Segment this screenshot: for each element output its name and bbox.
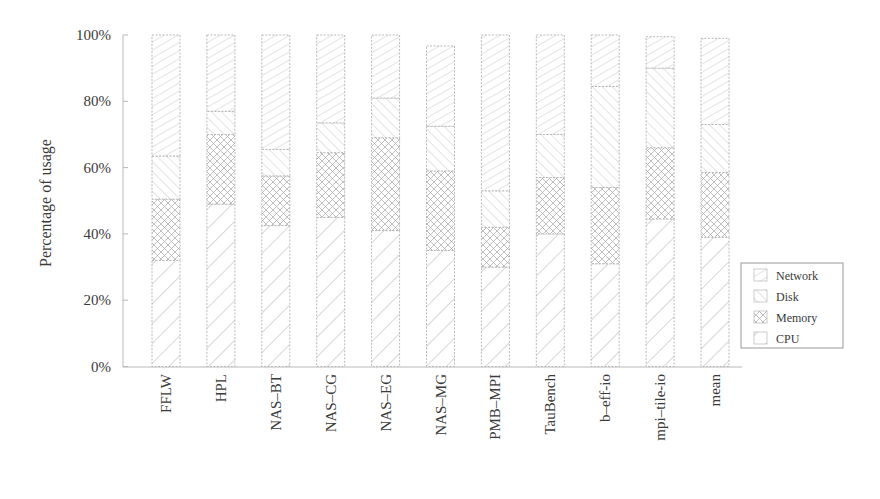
y-tick-label: 20%: [84, 292, 112, 308]
x-tick-label: NAS–MG: [433, 374, 449, 436]
legend-label-memory: Memory: [776, 311, 817, 325]
bar-segment-disk: [262, 149, 290, 176]
y-axis-title: Percentage of usage: [37, 139, 55, 267]
legend-label-network: Network: [776, 269, 818, 283]
bar-segment-cpu: [481, 267, 509, 366]
legend-swatch-disk: [754, 290, 767, 302]
bar-segment-memory: [701, 173, 729, 238]
x-tick-label: HPL: [213, 374, 229, 402]
bar-nas-cg: [317, 35, 345, 367]
bar-segment-disk: [481, 191, 509, 227]
x-tick-label: NAS–CG: [323, 374, 339, 433]
bar-segment-cpu: [427, 250, 455, 366]
bar-segment-memory: [372, 138, 400, 231]
bar-segment-memory: [207, 134, 235, 204]
bar-nas-eg: [372, 35, 400, 367]
bar-segment-network: [646, 37, 674, 68]
bar-segment-cpu: [372, 231, 400, 367]
bar-segment-network: [262, 35, 290, 149]
bar-segment-network: [591, 35, 619, 86]
x-tick-labels: FFLWHPLNAS–BTNAS–CGNAS–EGNAS–MGPMB–MPITa…: [158, 373, 723, 440]
legend-label-disk: Disk: [776, 290, 799, 304]
bar-segment-network: [536, 35, 564, 134]
x-tick-label: FFLW: [158, 373, 174, 413]
bar-segment-memory: [427, 171, 455, 251]
bar-segment-network: [481, 35, 509, 191]
bar-segment-disk: [317, 123, 345, 153]
bar-segment-cpu: [646, 219, 674, 367]
legend-swatch-network: [754, 269, 767, 281]
bar-segment-cpu: [317, 217, 345, 366]
y-tick-label: 60%: [84, 160, 112, 176]
bar-segment-memory: [591, 187, 619, 263]
bar-segment-disk: [372, 98, 400, 138]
bar-fflw: [152, 35, 180, 367]
bar-segment-cpu: [701, 237, 729, 366]
legend-swatch-cpu: [754, 332, 767, 344]
y-ticks: 0%20%40%60%80%100%: [76, 27, 128, 375]
y-tick-label: 40%: [84, 226, 112, 242]
x-tick-label: b–eff-io: [597, 374, 613, 422]
bars: [152, 35, 729, 367]
bar-segment-cpu: [262, 226, 290, 367]
y-tick-label: 0%: [91, 359, 111, 375]
bar-segment-network: [207, 35, 235, 111]
y-tick-label: 100%: [76, 27, 111, 43]
y-tick-label: 80%: [84, 93, 112, 109]
legend-swatch-memory: [754, 311, 767, 323]
bar-hpl: [207, 35, 235, 367]
x-tick-label: NAS–EG: [378, 374, 394, 432]
stacked-bar-chart: 0%20%40%60%80%100% FFLWHPLNAS–BTNAS–CGNA…: [0, 0, 880, 499]
bar-segment-memory: [262, 176, 290, 226]
bar-segment-network: [427, 46, 455, 126]
bar-segment-cpu: [152, 260, 180, 366]
bar-segment-disk: [591, 86, 619, 187]
x-tick-label: TauBench: [542, 374, 558, 435]
bar-pmb-mpi: [481, 35, 509, 367]
bar-segment-cpu: [207, 204, 235, 366]
bar-segment-memory: [317, 153, 345, 218]
bar-segment-network: [152, 35, 180, 156]
x-tick-label: mean: [707, 374, 723, 407]
bar-segment-cpu: [536, 234, 564, 367]
bar-segment-disk: [646, 68, 674, 148]
bar-segment-network: [317, 35, 345, 123]
x-tick-label: mpi–tile-io: [652, 374, 668, 441]
bar-segment-disk: [207, 111, 235, 134]
legend: NetworkDiskMemoryCPU: [741, 263, 843, 348]
bar-nas-bt: [262, 35, 290, 367]
bar-segment-memory: [481, 227, 509, 267]
bar-segment-memory: [536, 178, 564, 234]
bar-segment-network: [701, 38, 729, 124]
bar-nas-mg: [427, 46, 455, 367]
bar-b-eff-io: [591, 35, 619, 367]
bar-segment-cpu: [591, 264, 619, 367]
bar-segment-disk: [427, 126, 455, 171]
bar-segment-network: [372, 35, 400, 98]
bar-mpi-tile-io: [646, 37, 674, 367]
bar-taubench: [536, 35, 564, 367]
legend-label-cpu: CPU: [776, 332, 800, 346]
bar-mean: [701, 38, 729, 366]
bar-segment-memory: [646, 148, 674, 219]
bar-segment-disk: [536, 134, 564, 177]
x-tick-label: PMB–MPI: [487, 374, 503, 440]
bar-segment-disk: [701, 125, 729, 173]
x-tick-label: NAS–BT: [268, 374, 284, 431]
bar-segment-memory: [152, 199, 180, 260]
bar-segment-disk: [152, 156, 180, 199]
